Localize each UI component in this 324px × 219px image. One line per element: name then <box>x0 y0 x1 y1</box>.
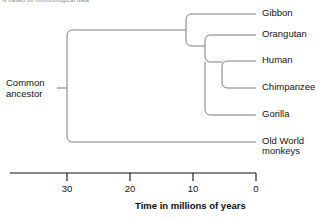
axis-title: Time in millions of years <box>135 200 246 211</box>
branch-to-african-apes-node <box>205 56 222 62</box>
branch-gibbon <box>186 14 256 20</box>
axis-tick-label-0: 0 <box>241 183 271 194</box>
branch-gorilla <box>205 109 256 115</box>
common-ancestor-label-line1: Common <box>6 77 45 88</box>
leaf-label-orangutan: Orangutan <box>262 29 307 40</box>
branch-orangutan <box>205 35 256 41</box>
leaf-label-human: Human <box>262 55 293 66</box>
branch-human <box>222 61 256 67</box>
leaf-label-chimpanzee: Chimpanzee <box>262 82 315 93</box>
axis-tick-label-10: 10 <box>178 183 208 194</box>
branch-old-world-monkeys <box>67 136 256 142</box>
branch-chimpanzee <box>222 82 256 88</box>
branch-to-apes-node <box>67 30 186 36</box>
axis-tick-label-20: 20 <box>115 183 145 194</box>
leaf-label-gorilla: Gorilla <box>262 109 289 120</box>
common-ancestor-label-line2: ancestor <box>6 88 42 99</box>
axis-tick-label-30: 30 <box>52 183 82 194</box>
leaf-label-gibbon: Gibbon <box>262 8 293 19</box>
phylogenetic-tree-figure: is based on immunological data <box>0 0 324 219</box>
leaf-label-old-world-monkeys-line2: monkeys <box>262 146 300 157</box>
branch-to-great-apes-node <box>186 40 205 46</box>
